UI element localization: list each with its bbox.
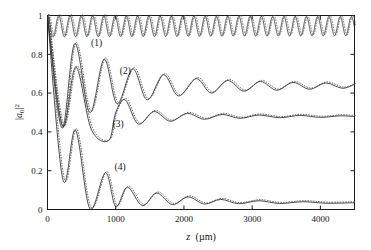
y-axis-tick-labels: 00.20.40.60.81 [31, 11, 43, 215]
x-tick-label: 0 [45, 214, 50, 224]
y-axis-title: |a0|2 [13, 103, 26, 120]
x-tick-label: 3000 [243, 214, 262, 224]
y-tick-label: 0.2 [31, 166, 42, 176]
y-tick-label: 1 [38, 11, 43, 21]
curve-label-4: (4) [115, 162, 126, 173]
x-tick-label: 1000 [107, 214, 126, 224]
curve-label-1: (1) [91, 38, 102, 49]
curve-label-2: (2) [120, 66, 131, 77]
chart-figure: 00.20.40.60.81 01000200030004000 (1)(2)(… [0, 0, 371, 250]
y-tick-label: 0.4 [31, 127, 43, 137]
x-tick-label: 2000 [175, 214, 194, 224]
y-tick-label: 0 [38, 205, 43, 215]
x-axis-tick-labels: 01000200030004000 [45, 214, 330, 224]
x-axis-title: z (µm) [185, 231, 216, 243]
curve-label-3: (3) [113, 119, 124, 130]
y-tick-label: 0.6 [31, 88, 43, 98]
x-tick-label: 4000 [311, 214, 330, 224]
y-tick-label: 0.8 [31, 50, 43, 60]
